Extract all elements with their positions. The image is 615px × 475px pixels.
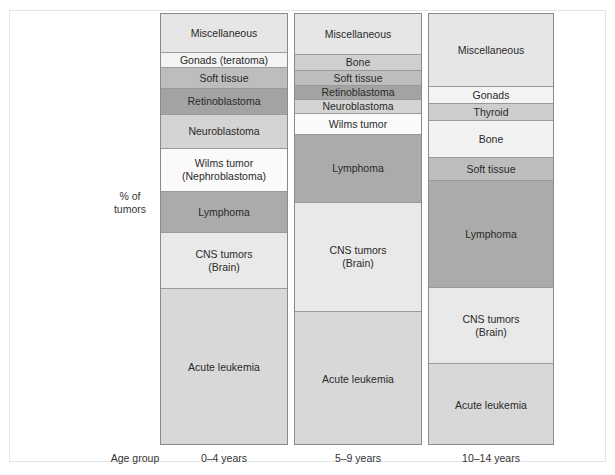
bar-segment: Gonads [429, 87, 553, 104]
bar-segment: Acute leukemia [429, 364, 553, 445]
bar-segment: Lymphoma [295, 135, 421, 203]
bar-column: MiscellaneousGonadsThyroidBoneSoft tissu… [428, 13, 554, 445]
bar-segment: Thyroid [429, 104, 553, 121]
bar-segment: Wilms tumor (Nephroblastoma) [161, 149, 287, 192]
bar-segment: Bone [429, 121, 553, 158]
bar-segment: Miscellaneous [429, 14, 553, 87]
bar-segment: Retinoblastoma [295, 86, 421, 100]
bar-segment: Miscellaneous [295, 14, 421, 55]
bar-segment: Lymphoma [429, 181, 553, 288]
bar-segment: Acute leukemia [161, 289, 287, 445]
category-label: 0–4 years [160, 452, 288, 464]
bar-segment: Miscellaneous [161, 14, 287, 53]
category-label: 10–14 years [428, 452, 554, 464]
bar-segment: Lymphoma [161, 192, 287, 233]
bar-segment: Wilms tumor [295, 114, 421, 135]
bar-segment: Soft tissue [429, 158, 553, 181]
bar-segment: Acute leukemia [295, 312, 421, 445]
bar-segment: Soft tissue [295, 71, 421, 86]
bar-column: MiscellaneousGonads (teratoma)Soft tissu… [160, 13, 288, 445]
bar-segment: CNS tumors (Brain) [429, 288, 553, 364]
bar-column: MiscellaneousBoneSoft tissueRetinoblasto… [294, 13, 422, 445]
y-axis-label: % of tumors [100, 190, 160, 216]
bar-segment: CNS tumors (Brain) [295, 203, 421, 312]
bar-segment: CNS tumors (Brain) [161, 233, 287, 289]
bar-segment: Soft tissue [161, 68, 287, 89]
category-label: 5–9 years [294, 452, 422, 464]
bar-segment: Neuroblastoma [161, 115, 287, 149]
bar-segment: Neuroblastoma [295, 100, 421, 114]
bar-segment: Gonads (teratoma) [161, 53, 287, 68]
bar-segment: Bone [295, 55, 421, 71]
bar-segment: Retinoblastoma [161, 89, 287, 115]
